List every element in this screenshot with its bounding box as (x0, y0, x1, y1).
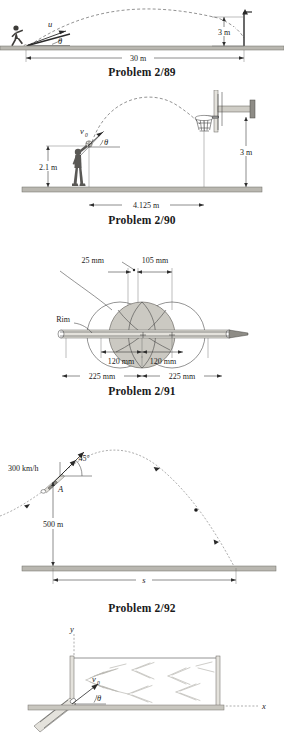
figure-problem-2-91: 25 mm 105 mm Rim (0, 240, 284, 385)
angle-45-group: 45° (60, 454, 92, 476)
caption-problem-2-90: Problem 2/90 (0, 214, 284, 226)
theta-arc (100, 140, 103, 146)
label-jet-velocity: v (92, 674, 96, 684)
path-arrow-3 (214, 540, 219, 545)
caption-problem-2-91: Problem 2/91 (0, 385, 284, 397)
label-rim: Rim (56, 315, 71, 324)
figure-problem-2-93: y x v (0, 622, 284, 737)
label-500m: 500 m (43, 520, 64, 529)
caption-problem-2-92: Problem 2/92 (0, 602, 284, 614)
dimension-225mm: 225 mm 225 mm (62, 370, 222, 381)
path-arrow-1 (24, 504, 30, 509)
label-angle-theta: θ (58, 36, 62, 46)
dimension-rim-height: 3 m (232, 117, 259, 187)
soccer-player-figure (11, 25, 23, 46)
dimension-altitude: 500 m (34, 482, 72, 566)
ground-line-3 (28, 705, 224, 710)
goal-post (242, 9, 252, 47)
figure-problem-2-90: 2.1 m 3 m v 0 θ (0, 90, 284, 205)
label-jet-velocity-subscript: 0 (97, 680, 100, 686)
label-jet-angle-theta: θ (97, 693, 101, 703)
jet-velocity-arrow (72, 684, 98, 704)
court-floor (22, 187, 262, 192)
label-25mm: 25 mm (82, 256, 105, 265)
range-dim-2-svg: 4.125 m (0, 196, 284, 214)
label-height-3m: 3 m (218, 28, 231, 37)
water-spray-pattern (86, 662, 214, 703)
figure-problem-2-92: 45° 300 km/h A 500 m s (0, 418, 284, 588)
label-velocity-v0-subscript: 0 (85, 132, 88, 138)
caption-problem-2-89: Problem 2/89 (0, 66, 284, 78)
label-2-1m: 2.1 m (39, 163, 58, 172)
dimension-clearances: 25 mm 105 mm (82, 256, 172, 310)
figure-2-92-svg: 45° 300 km/h A 500 m s (0, 418, 284, 588)
label-4-125m: 4.125 m (133, 201, 160, 210)
label-point-a: A (57, 484, 64, 494)
figure-2-91-svg: 25 mm 105 mm Rim (0, 240, 284, 385)
label-105mm: 105 mm (142, 256, 169, 265)
label-225mm-right: 225 mm (169, 372, 196, 381)
kick-line (26, 34, 70, 46)
figure-2-90-dimension-range: 4.125 m (0, 196, 284, 214)
tank-right-wall (216, 656, 220, 706)
path-arrow-2 (154, 467, 160, 471)
label-axis-x: x (261, 701, 266, 711)
label-120mm-left: 120 mm (108, 357, 135, 366)
shot-trajectory (92, 97, 200, 142)
label-120mm-right: 120 mm (150, 357, 177, 366)
rim-bar (58, 330, 248, 338)
ground-line-2 (22, 566, 276, 571)
label-velocity-u: u (48, 19, 52, 29)
label-3m-rim: 3 m (240, 148, 253, 157)
label-axis-y: y (69, 624, 74, 634)
ball-callout-leader (60, 271, 112, 310)
projectile-marker (194, 508, 198, 512)
label-45deg: 45° (78, 454, 89, 463)
figure-2-93-svg: y x v (0, 622, 284, 737)
label-range-30m: 30 m (130, 54, 147, 63)
label-v0-group: v 0 (80, 126, 88, 138)
label-225mm-left: 225 mm (89, 372, 116, 381)
label-300kmh: 300 km/h (8, 464, 38, 473)
label-angle-theta-2: θ (104, 137, 108, 147)
water-nozzle (34, 697, 77, 732)
label-velocity-v0: v (80, 126, 84, 136)
basketball-player-figure (72, 145, 88, 186)
projectile-path (60, 450, 236, 570)
figure-2-90-svg: 2.1 m 3 m v 0 θ (0, 90, 284, 205)
